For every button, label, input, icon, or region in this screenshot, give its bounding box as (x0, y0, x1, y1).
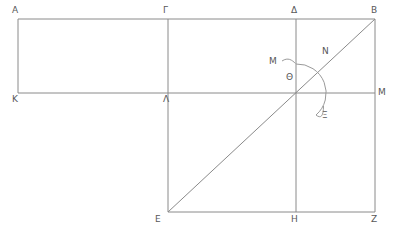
point-label-mu-endpoint: Μ (378, 88, 386, 97)
geometry-figure: Α Γ Δ Β Κ Λ Μ Θ Μ Ν Ξ Ε Η Ζ (0, 0, 393, 235)
diagonal-E-B-line (168, 19, 375, 212)
point-label-beta: Β (371, 6, 377, 15)
point-label-zeta: Ζ (371, 215, 377, 224)
point-label-theta: Θ (286, 73, 293, 82)
point-label-eta: Η (291, 215, 298, 224)
point-label-mu-arc: Μ (269, 57, 277, 66)
point-label-xi: Ξ (322, 111, 328, 120)
point-label-gamma: Γ (163, 6, 168, 15)
geometry-canvas (0, 0, 393, 235)
angle-arc-at-theta (296, 64, 326, 115)
leader-line-to-m-arc (282, 59, 296, 63)
point-label-epsilon: Ε (155, 215, 161, 224)
point-label-lambda: Λ (163, 95, 169, 104)
point-label-kappa: Κ (12, 95, 18, 104)
point-label-delta: Δ (291, 6, 297, 15)
point-label-alpha: Α (12, 6, 18, 15)
point-label-nu: Ν (322, 47, 329, 56)
